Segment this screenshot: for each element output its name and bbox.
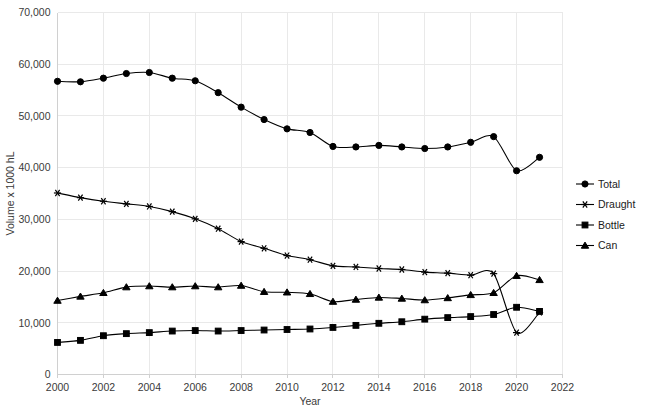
data-point-marker-circle [238, 104, 244, 110]
legend-label: Total [598, 178, 620, 190]
x-axis-tick-label: 2016 [413, 381, 437, 393]
data-point-marker-circle [399, 144, 405, 150]
data-point-marker-square [537, 309, 543, 315]
data-point-marker-square [284, 327, 290, 333]
data-point-marker-square [261, 327, 267, 333]
data-point-marker-circle [100, 75, 106, 81]
x-axis-tick-label: 2012 [321, 381, 345, 393]
data-point-marker-star [77, 195, 84, 201]
data-point-marker-star [169, 209, 176, 215]
series-line-bottle [58, 307, 540, 342]
data-point-marker-square [514, 304, 520, 310]
x-axis-tick-label: 2020 [505, 381, 529, 393]
data-point-marker-circle [307, 129, 313, 135]
data-point-marker-circle [146, 69, 152, 75]
x-axis-tick-label: 2022 [551, 381, 575, 393]
x-axis-title: Year [299, 395, 321, 407]
data-point-marker-square [101, 333, 107, 339]
y-axis-tick-label: 70,000 [18, 6, 50, 18]
gridlines [58, 13, 563, 375]
data-point-marker-star [215, 226, 222, 232]
x-axis-tick-label: 2014 [367, 381, 391, 393]
data-point-marker-circle [284, 126, 290, 132]
x-axis-tick-label: 2004 [138, 381, 162, 393]
legend-label: Can [598, 239, 617, 251]
data-point-marker-circle [513, 168, 519, 174]
legend: TotalDraughtBottleCan [576, 178, 635, 252]
data-point-marker-circle [330, 143, 336, 149]
legend-item-can[interactable]: Can [576, 239, 617, 251]
data-point-marker-star [581, 201, 588, 207]
series-bottle [55, 304, 543, 345]
data-point-marker-square [215, 328, 221, 334]
series-total [54, 69, 542, 173]
data-point-marker-triangle [490, 289, 497, 295]
data-point-marker-square [238, 328, 244, 334]
legend-item-total[interactable]: Total [576, 178, 620, 190]
line-chart: 010,00020,00030,00040,00050,00060,00070,… [0, 0, 652, 413]
data-point-marker-circle [376, 142, 382, 148]
y-axis-tick-labels: 010,00020,00030,00040,00050,00060,00070,… [18, 6, 50, 380]
data-point-marker-square [582, 222, 588, 228]
data-point-marker-star [352, 264, 359, 270]
legend-label: Draught [598, 198, 635, 210]
y-axis-tick-label: 10,000 [18, 317, 50, 329]
y-axis-tick-label: 20,000 [18, 265, 50, 277]
series-group [54, 69, 543, 345]
y-axis-title: Volume x 1000 hL [4, 151, 16, 235]
data-point-marker-circle [582, 181, 588, 187]
data-point-marker-circle [123, 70, 129, 76]
x-axis-tick-label: 2000 [46, 381, 70, 393]
data-point-marker-square [146, 330, 152, 336]
data-point-marker-circle [491, 134, 497, 140]
y-axis-tick-label: 40,000 [18, 161, 50, 173]
y-axis-tick-label: 30,000 [18, 213, 50, 225]
data-point-marker-star [260, 245, 267, 251]
data-point-marker-star [398, 266, 405, 272]
legend-label: Bottle [598, 219, 625, 231]
data-point-marker-circle [77, 79, 83, 85]
y-axis-tick-label: 0 [45, 368, 51, 380]
data-point-marker-circle [215, 90, 221, 96]
x-axis-tick-label: 2018 [459, 381, 483, 393]
x-axis-tick-label: 2008 [229, 381, 253, 393]
data-point-marker-circle [54, 78, 60, 84]
data-point-marker-square [491, 312, 497, 318]
legend-item-bottle[interactable]: Bottle [576, 219, 625, 231]
data-point-marker-square [468, 314, 474, 320]
x-axis-tick-label: 2002 [92, 381, 116, 393]
chart-container: 010,00020,00030,00040,00050,00060,00070,… [0, 0, 652, 413]
data-point-marker-circle [422, 145, 428, 151]
legend-item-draught[interactable]: Draught [576, 198, 635, 210]
data-point-marker-circle [536, 154, 542, 160]
data-point-marker-square [192, 328, 198, 334]
data-point-marker-square [78, 337, 84, 343]
data-point-marker-square [55, 340, 61, 346]
series-line-draught [58, 193, 540, 333]
data-point-marker-circle [192, 78, 198, 84]
series-line-total [58, 72, 540, 171]
data-point-marker-square [376, 320, 382, 326]
data-point-marker-circle [261, 116, 267, 122]
y-axis-tick-label: 50,000 [18, 110, 50, 122]
data-point-marker-square [123, 331, 129, 337]
data-point-marker-circle [169, 75, 175, 81]
data-point-marker-star [306, 257, 313, 263]
y-axis-tick-label: 60,000 [18, 58, 50, 70]
data-point-marker-circle [353, 144, 359, 150]
data-point-marker-square [169, 328, 175, 334]
data-point-marker-square [307, 326, 313, 332]
x-axis-tick-label: 2010 [275, 381, 299, 393]
data-point-marker-circle [445, 144, 451, 150]
data-point-marker-square [353, 322, 359, 328]
data-point-marker-circle [468, 139, 474, 145]
data-point-marker-square [445, 315, 451, 321]
data-point-marker-square [422, 316, 428, 322]
data-point-marker-square [330, 325, 336, 331]
data-point-marker-star [123, 201, 130, 207]
data-point-marker-square [399, 319, 405, 325]
x-axis-tick-labels: 2000200220042006200820102012201420162018… [46, 381, 575, 393]
x-axis-tick-label: 2006 [184, 381, 208, 393]
